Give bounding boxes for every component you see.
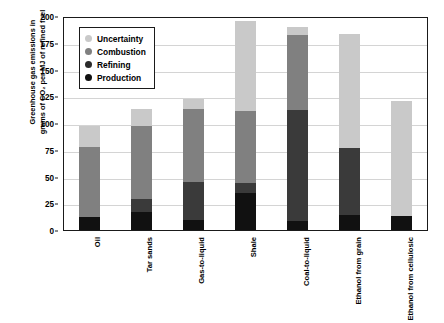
- bar-segment-production: [79, 217, 100, 230]
- y-tick-label-125: 125: [2, 93, 54, 102]
- legend-item[interactable]: Combustion: [85, 45, 146, 58]
- stacked-bar[interactable]: [235, 21, 256, 230]
- bar-segment-production: [183, 220, 204, 230]
- x-tick-label: Tar sands: [145, 237, 154, 272]
- bar-slot: [271, 18, 323, 230]
- legend-item[interactable]: Refining: [85, 58, 146, 71]
- bar-segment-refining: [287, 110, 308, 221]
- stacked-bar[interactable]: [183, 99, 204, 230]
- bar-segment-refining: [131, 199, 152, 212]
- bar-segment-uncertainty: [339, 34, 360, 147]
- x-tick-label: Gas-to-liquid: [197, 237, 206, 284]
- bar-segment-uncertainty: [131, 109, 152, 126]
- legend-item-label: Combustion: [97, 47, 146, 57]
- y-tick-mark-175: [55, 43, 58, 44]
- stacked-bar[interactable]: [287, 27, 308, 230]
- legend-swatch-icon: [85, 74, 92, 81]
- bar-segment-production: [235, 193, 256, 230]
- x-tick-slot: Tar sands: [115, 234, 167, 320]
- y-tick-label-0: 0: [2, 227, 54, 236]
- bar-segment-refining: [183, 182, 204, 221]
- stacked-bar[interactable]: [79, 126, 100, 230]
- y-tick-mark-0: [55, 231, 58, 232]
- x-tick-slot: Ethanol from cellulosic: [376, 234, 428, 320]
- y-tick-mark-200: [55, 17, 58, 18]
- y-tick-mark-25: [55, 204, 58, 205]
- x-tick-label: Ethanol from grain: [354, 237, 363, 305]
- bar-segment-refining: [339, 148, 360, 215]
- legend-swatch-icon: [85, 35, 92, 42]
- x-tick-label: Ethanol from cellulosic: [406, 237, 415, 321]
- bar-segment-combustion: [235, 111, 256, 183]
- y-tick-mark-125: [55, 97, 58, 98]
- y-tick-mark-50: [55, 177, 58, 178]
- y-tick-label-75: 75: [2, 146, 54, 155]
- y-tick-label-25: 25: [2, 200, 54, 209]
- y-tick-mark-100: [55, 124, 58, 125]
- bar-segment-combustion: [79, 147, 100, 218]
- bar-segment-combustion: [131, 126, 152, 199]
- y-tick-label-200: 200: [2, 13, 54, 22]
- bar-slot: [168, 18, 220, 230]
- bar-slot: [220, 18, 272, 230]
- legend-item[interactable]: Uncertainty: [85, 32, 146, 45]
- bar-segment-production: [391, 216, 412, 230]
- bar-segment-production: [339, 215, 360, 230]
- y-tick-mark-150: [55, 70, 58, 71]
- y-tick-label-150: 150: [2, 66, 54, 75]
- bar-segment-uncertainty: [287, 27, 308, 36]
- y-tick-label-175: 175: [2, 39, 54, 48]
- x-tick-label: Shale: [249, 237, 258, 257]
- x-tick-slot: Gas-to-liquid: [167, 234, 219, 320]
- bar-segment-combustion: [183, 109, 204, 182]
- bar-slot: [323, 18, 375, 230]
- y-tick-label-100: 100: [2, 120, 54, 129]
- x-tick-slot: Shale: [219, 234, 271, 320]
- legend-swatch-icon: [85, 48, 92, 55]
- x-tick-slot: Oil: [63, 234, 115, 320]
- y-tick-label-50: 50: [2, 173, 54, 182]
- bar-segment-uncertainty: [235, 21, 256, 111]
- bar-segment-uncertainty: [183, 99, 204, 109]
- legend-swatch-icon: [85, 61, 92, 68]
- y-axis-tick-labels: 0255075100125150175200: [0, 0, 60, 323]
- legend-item-label: Production: [97, 73, 141, 83]
- greenhouse-gas-emissions-chart: Greenhouse gas emissions in grams of CO₂…: [0, 0, 444, 323]
- x-tick-label: Oil: [93, 237, 102, 247]
- bar-slot: [375, 18, 427, 230]
- legend-item-label: Uncertainty: [97, 34, 143, 44]
- legend-item-label: Refining: [97, 60, 131, 70]
- bar-segment-combustion: [287, 35, 308, 110]
- x-tick-slot: Coal-to-liquid: [272, 234, 324, 320]
- bar-segment-uncertainty: [391, 101, 412, 217]
- x-tick-slot: Ethanol from grain: [324, 234, 376, 320]
- chart-legend: UncertaintyCombustionRefiningProduction: [79, 27, 155, 89]
- stacked-bar[interactable]: [131, 109, 152, 230]
- legend-item[interactable]: Production: [85, 71, 146, 84]
- stacked-bar[interactable]: [339, 34, 360, 230]
- bar-segment-production: [131, 212, 152, 230]
- stacked-bar[interactable]: [391, 101, 412, 230]
- x-tick-label: Coal-to-liquid: [302, 237, 311, 286]
- bar-segment-refining: [235, 183, 256, 193]
- y-tick-mark-75: [55, 150, 58, 151]
- bar-segment-uncertainty: [79, 126, 100, 146]
- x-axis-tick-labels: OilTar sandsGas-to-liquidShaleCoal-to-li…: [63, 234, 428, 320]
- bar-segment-production: [287, 221, 308, 230]
